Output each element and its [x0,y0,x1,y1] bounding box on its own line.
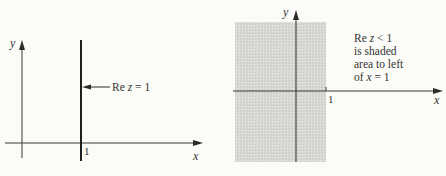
pointer-arrow [82,85,110,90]
right-y-arrowhead-icon [293,10,299,20]
left-y-label: y [9,36,16,50]
left-x-arrowhead-icon [193,140,203,146]
svg-text:is shaded: is shaded [354,45,397,57]
svg-text:Re z < 1: Re z < 1 [354,32,392,44]
svg-text:area to left: area to left [354,58,404,70]
right-tick-label-1: 1 [328,93,334,105]
right-figure: y x 1 Re z < 1 is shaded area to left of… [233,5,443,162]
right-y-label: y [282,5,289,19]
right-x-label: x [433,93,440,107]
pointer-arrowhead-icon [82,85,91,90]
left-tick-label-1: 1 [84,145,90,157]
left-x-label: x [192,149,199,163]
annotation-shaded-description: Re z < 1 is shaded area to left of x = 1 [354,32,404,83]
left-figure: y x 1 Re z = 1 [5,36,203,163]
left-y-arrowhead-icon [19,40,25,50]
left-x-axis [5,140,203,146]
svg-text:of x = 1: of x = 1 [354,71,390,83]
annotation-re-z-equals-1: Re z = 1 [112,81,150,93]
left-y-axis [19,40,25,158]
shaded-region-re-z-less-than-1 [235,22,326,162]
